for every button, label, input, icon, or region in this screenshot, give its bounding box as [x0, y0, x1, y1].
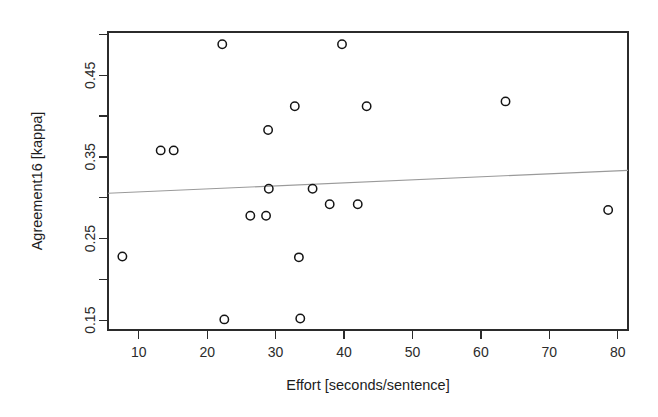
x-tick-label: 60 [473, 344, 489, 360]
data-point-marker [296, 314, 304, 322]
x-tick-label: 40 [336, 344, 352, 360]
plot-canvas: 0.150.250.350.45 1020304050607080 Effort… [0, 0, 658, 417]
y-tick-label: 0.15 [82, 306, 98, 333]
y-axis-ticks: 0.150.250.350.45 [82, 34, 108, 333]
data-point-marker [262, 211, 270, 219]
x-tick-label: 70 [542, 344, 558, 360]
data-point-marker [169, 146, 177, 154]
scatter-plot-figure: 0.150.250.350.45 1020304050607080 Effort… [0, 0, 658, 417]
data-point-marker [246, 211, 254, 219]
data-point-marker [325, 200, 333, 208]
x-tick-label: 50 [405, 344, 421, 360]
plot-border [108, 32, 628, 330]
data-point-marker [291, 102, 299, 110]
data-point-marker [156, 146, 164, 154]
y-tick-label: 0.25 [82, 225, 98, 252]
y-tick-label: 0.45 [82, 61, 98, 88]
data-point-marker [264, 126, 272, 134]
data-point-marker [118, 252, 126, 260]
data-point-marker [295, 253, 303, 261]
data-point-marker [354, 200, 362, 208]
data-point-marker [604, 206, 612, 214]
data-point-marker [220, 315, 228, 323]
y-axis-label: Agreement16 [kappa] [29, 112, 45, 251]
data-point-marker [362, 102, 370, 110]
data-point-marker [338, 40, 346, 48]
data-point-marker [308, 185, 316, 193]
x-tick-label: 80 [610, 344, 626, 360]
y-tick-label: 0.35 [82, 143, 98, 170]
trendline [108, 170, 628, 193]
data-point-marker [218, 40, 226, 48]
x-axis-label: Effort [seconds/sentence] [286, 377, 449, 393]
plot-frame [108, 32, 628, 330]
x-axis-ticks: 1020304050607080 [131, 330, 626, 360]
data-point-marker [501, 97, 509, 105]
x-tick-label: 30 [268, 344, 284, 360]
regression-line [108, 170, 628, 193]
x-tick-label: 20 [199, 344, 215, 360]
x-tick-label: 10 [131, 344, 147, 360]
